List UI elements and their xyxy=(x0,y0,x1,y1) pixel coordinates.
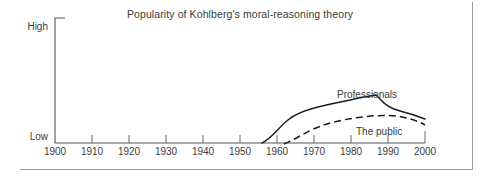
x-tick-label-1920: 1920 xyxy=(110,146,148,157)
series-line-public xyxy=(284,116,425,145)
x-tick-label-1930: 1930 xyxy=(147,146,185,157)
x-tick-label-1900: 1900 xyxy=(36,146,74,157)
x-tick-label-1950: 1950 xyxy=(221,146,259,157)
x-tick-label-1960: 1960 xyxy=(258,146,296,157)
y-axis-line xyxy=(55,18,65,143)
series-annotation-the-public: The public xyxy=(356,126,402,137)
x-tick-label-2000: 2000 xyxy=(406,146,444,157)
x-tick-label-1910: 1910 xyxy=(73,146,111,157)
x-tick-label-1980: 1980 xyxy=(332,146,370,157)
chart-figure: Popularity of Kohlberg's moral-reasoning… xyxy=(0,0,497,177)
x-tick-label-1940: 1940 xyxy=(184,146,222,157)
x-tick-label-1970: 1970 xyxy=(295,146,333,157)
series-annotation-professionals: Professionals xyxy=(337,89,397,100)
x-tick-label-1990: 1990 xyxy=(369,146,407,157)
